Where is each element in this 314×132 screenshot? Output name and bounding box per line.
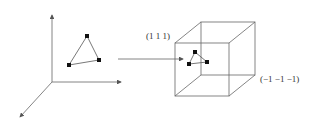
vertex-point bbox=[85, 34, 89, 38]
vertex-point bbox=[193, 50, 197, 54]
wireframe-cube bbox=[175, 22, 255, 96]
diagram-canvas bbox=[0, 0, 314, 132]
z-axis bbox=[20, 82, 52, 117]
corner-label-max: (1 1 1) bbox=[146, 32, 170, 41]
corner-label-min: (−1 −1 −1) bbox=[260, 75, 299, 84]
source-triangle bbox=[67, 34, 101, 67]
vertex-point bbox=[97, 58, 101, 62]
vertex-point bbox=[187, 62, 191, 66]
vertex-point bbox=[205, 60, 209, 64]
vertex-point bbox=[67, 63, 71, 67]
mapped-triangle bbox=[187, 50, 209, 66]
